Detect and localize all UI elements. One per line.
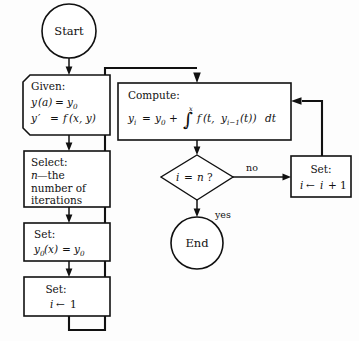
compute-dt: dt	[265, 112, 277, 124]
node-increment-equation: i ← i + 1	[300, 179, 347, 191]
flowchart-canvas: Start Given: y (a) = y 0 y ′ = f (x, y)	[0, 0, 359, 341]
edge-set0-to-seti1	[66, 261, 73, 277]
edge-select-to-set0	[66, 207, 73, 223]
node-select-line3: iterations	[31, 194, 82, 206]
set0-y2-sub: 0	[80, 249, 85, 258]
node-compute[interactable]: Compute: y i = y 0 + ∫ x a f (t, y i−1 (…	[118, 83, 291, 140]
node-increment[interactable]: Set: i ← i + 1	[291, 156, 351, 197]
node-compute-heading: Compute:	[128, 89, 180, 101]
seti1-arrow: ←	[56, 298, 65, 310]
node-select-line2: number of	[31, 182, 87, 194]
node-given-heading: Given:	[31, 80, 65, 92]
node-select-heading: Select:	[31, 156, 68, 168]
node-end[interactable]: End	[171, 217, 223, 269]
node-decision[interactable]: i = n ?	[161, 155, 233, 200]
node-given[interactable]: Given: y (a) = y 0 y ′ = f (x, y)	[23, 75, 110, 135]
incr-i: i	[300, 179, 303, 191]
given-eq2-equals: =	[50, 112, 59, 124]
edge-decide-to-end	[194, 200, 201, 217]
incr-plus: +	[328, 179, 337, 191]
flowchart-svg: Start Given: y (a) = y 0 y ′ = f (x, y)	[0, 0, 359, 341]
given-eq1-y0-sub: 0	[73, 102, 78, 111]
given-eq1-paren-a: (a)	[38, 96, 52, 108]
node-start[interactable]: Start	[42, 4, 96, 58]
select-line1-rest: —the	[37, 169, 65, 181]
incr-arrow: ←	[306, 179, 315, 191]
compute-integral-lower: a	[184, 123, 188, 131]
edge-decide-to-incr	[233, 174, 291, 181]
node-given-equation-2: y ′ = f (x, y)	[30, 112, 96, 124]
compute-equals: =	[142, 112, 151, 124]
edge-label-yes: yes	[214, 209, 231, 220]
compute-y-sub: i	[134, 118, 136, 127]
node-set-i-one[interactable]: Set: i ← 1	[24, 277, 110, 316]
seti1-i: i	[50, 298, 53, 310]
node-end-label: End	[185, 236, 209, 250]
given-eq2-y: y	[30, 112, 38, 124]
compute-y0-sub: 0	[161, 118, 166, 127]
node-select[interactable]: Select: n —the number of iterations	[24, 151, 110, 207]
compute-arg-close: (t))	[240, 112, 257, 124]
decision-equals: =	[184, 171, 193, 183]
set0-equals: =	[62, 243, 71, 255]
edge-start-to-given	[66, 58, 73, 75]
edge-label-no: no	[246, 162, 258, 173]
node-increment-heading: Set:	[310, 163, 331, 175]
node-set-initial-heading: Set:	[34, 228, 55, 240]
incr-one: 1	[340, 179, 347, 191]
given-eq1-y: y	[30, 96, 38, 108]
node-set-initial[interactable]: Set: y 0 (x) = y 0	[24, 223, 110, 261]
compute-arg-open: (t,	[203, 112, 215, 124]
node-start-label: Start	[54, 24, 84, 38]
edge-given-to-select	[66, 135, 73, 151]
edge-compute-to-decide	[194, 140, 201, 155]
seti1-one: 1	[70, 298, 77, 310]
edge-incr-to-compute	[291, 97, 322, 156]
set0-x-part: (x)	[44, 243, 58, 255]
given-eq1-equals: =	[55, 96, 64, 108]
incr-i2: i	[320, 179, 323, 191]
decision-i: i	[176, 171, 179, 183]
compute-integral-upper: x	[189, 105, 193, 113]
decision-n: n	[197, 171, 204, 183]
decision-question: ?	[207, 171, 213, 183]
given-eq2-args: (x, y)	[69, 112, 96, 124]
node-set-i-one-heading: Set:	[45, 283, 66, 295]
compute-plus: +	[169, 112, 178, 124]
compute-y-im1-sub: i−1	[227, 118, 240, 127]
node-select-line1: n —the	[31, 169, 65, 181]
